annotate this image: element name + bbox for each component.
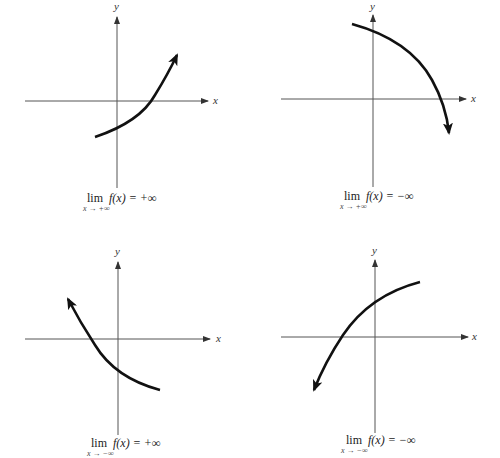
curve [95, 55, 177, 137]
panel-top-right [281, 15, 466, 187]
lim-word: lim [344, 189, 360, 203]
limit-subscript: x → −∞ [341, 446, 368, 455]
y-axis-label: y [372, 244, 377, 256]
x-axis-label: x [471, 92, 476, 104]
y-axis-label: y [114, 0, 119, 12]
limit-expression: f(x) = −∞ [368, 433, 415, 447]
curve [314, 282, 420, 390]
panel-bottom-left [25, 262, 210, 435]
limit-subscript: x → +∞ [340, 202, 367, 211]
lim-word: lim [87, 191, 103, 205]
curve [68, 299, 160, 390]
limit-expression: f(x) = +∞ [113, 436, 160, 450]
panel-bottom-right [281, 260, 468, 433]
limit-subscript: x → +∞ [83, 204, 110, 213]
x-axis-label: x [213, 94, 218, 106]
limit-expression: f(x) = +∞ [109, 191, 156, 205]
y-axis-label: y [115, 245, 120, 257]
curve [352, 24, 449, 133]
x-axis-label: x [472, 330, 477, 342]
lim-word: lim [91, 436, 107, 450]
y-axis-label: y [370, 0, 375, 12]
limit-subscript: x → −∞ [87, 449, 114, 458]
lim-word: lim [346, 433, 362, 447]
panel-top-left [25, 17, 208, 188]
x-axis-label: x [216, 332, 221, 344]
limit-expression: f(x) = −∞ [366, 189, 413, 203]
